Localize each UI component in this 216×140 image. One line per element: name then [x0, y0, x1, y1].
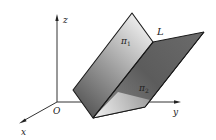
y-axis-arrow-icon	[174, 100, 181, 103]
x-axis-label: x	[21, 127, 26, 137]
origin-label: O	[53, 106, 61, 116]
x-axis	[23, 102, 57, 121]
z-axis-label: z	[62, 15, 68, 25]
z-axis-arrow-icon	[55, 14, 58, 21]
y-axis-label: y	[172, 107, 179, 117]
dihedral-planes-diagram: z y x O L π1 π2	[0, 0, 216, 140]
line-L-label: L	[156, 26, 164, 37]
